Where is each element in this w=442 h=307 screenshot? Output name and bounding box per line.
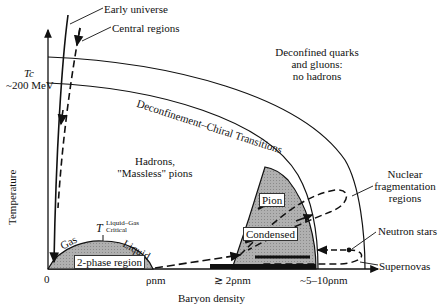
- x-tick-5-10rho: ~5–10ρnm: [300, 274, 348, 286]
- y-axis-label: Temperature: [6, 170, 18, 225]
- central-regions-label: Central regions: [112, 22, 180, 34]
- phase-diagram-canvas: [0, 0, 442, 307]
- x-axis-label: Baryon density: [178, 292, 245, 304]
- critical-temp-label: T: [96, 222, 103, 234]
- early-universe-trajectory: [54, 15, 68, 262]
- early-universe-label: Early universe: [104, 3, 168, 15]
- nuclear-fragmentation-label: Nuclear fragmentation regions: [368, 168, 442, 204]
- two-phase-label: 2-phase region: [74, 255, 145, 269]
- x-tick-rho-nm: ρnm: [146, 274, 166, 286]
- pion-label: Pion: [259, 193, 285, 207]
- tc-value: ~200 MeV: [6, 79, 54, 91]
- condensed-label: Condensed: [243, 227, 298, 241]
- x-tick-zero: 0: [44, 273, 50, 285]
- transition-band: [48, 57, 365, 269]
- hadrons-region-label: Hadrons, "Massless" pions: [110, 155, 200, 179]
- tc-symbol: Tc: [24, 67, 34, 79]
- supernovas-label: Supernovas: [379, 260, 430, 272]
- neutron-star-point: [347, 248, 352, 253]
- neutron-stars-label: Neutron stars: [378, 225, 437, 237]
- x-tick-2rho: ≳ 2ρnm: [214, 274, 251, 286]
- qgp-region-label: Deconfined quarks and gluons: no hadrons: [262, 46, 372, 82]
- critical-temp-subscripts: Liquid–Gas Critical: [106, 220, 139, 234]
